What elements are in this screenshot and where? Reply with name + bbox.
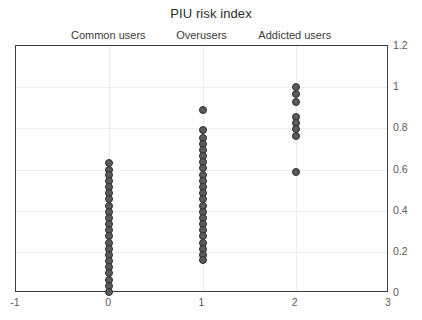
data-point xyxy=(199,106,207,114)
y-tick-label-5: 1 xyxy=(393,80,399,92)
y-tick-label-1: 0.2 xyxy=(393,245,408,257)
chart-title: PIU risk index xyxy=(0,6,422,21)
group-label-0: Common users xyxy=(71,29,146,41)
y-tick-label-2: 0.4 xyxy=(393,204,408,216)
plot-area xyxy=(15,45,388,292)
y-tick-label-6: 1.2 xyxy=(393,39,408,51)
x-tick-label-1: 0 xyxy=(105,296,111,308)
data-point xyxy=(292,98,300,106)
y-tick-label-4: 0.8 xyxy=(393,121,408,133)
data-point xyxy=(199,256,207,264)
x-tick-label-4: 3 xyxy=(385,296,391,308)
group-label-2: Addicted users xyxy=(258,29,331,41)
x-tick-label-2: 1 xyxy=(199,296,205,308)
y-tick-label-0: 0 xyxy=(393,286,399,298)
x-tick-label-3: 2 xyxy=(292,296,298,308)
data-point xyxy=(292,168,300,176)
group-label-1: Overusers xyxy=(176,29,227,41)
data-point xyxy=(105,288,113,296)
y-tick-label-3: 0.6 xyxy=(393,163,408,175)
chart-figure: PIU risk index Common usersOverusersAddi… xyxy=(0,0,422,320)
gridline-horizontal-5 xyxy=(16,87,387,88)
x-tick-label-0: -1 xyxy=(10,296,19,308)
data-point xyxy=(292,132,300,140)
